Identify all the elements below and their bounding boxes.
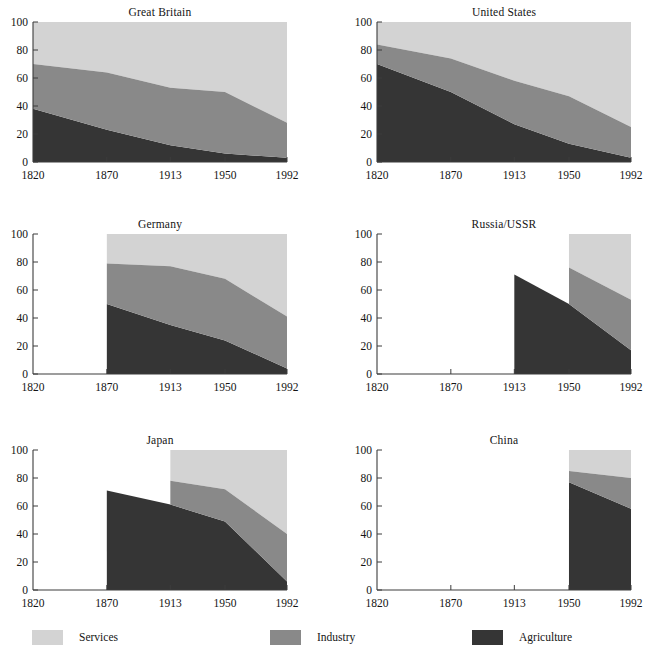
y-tick-label: 0 [366, 156, 372, 168]
y-tick-label: 60 [361, 500, 373, 512]
y-tick-label: 40 [17, 100, 29, 112]
legend-item-industry: Industry [270, 627, 355, 647]
panel-plot: 02040608010018201870191319501992 [3, 6, 301, 188]
x-tick-label: 1820 [22, 381, 45, 393]
x-tick-label: 1992 [620, 597, 643, 609]
x-tick-label: 1950 [557, 381, 580, 393]
x-tick-label: 1992 [276, 597, 299, 609]
y-tick-label: 20 [361, 340, 373, 352]
legend-label: Industry [317, 631, 355, 643]
y-tick-label: 100 [11, 444, 29, 456]
panel-germany: Germany02040608010018201870191319501992 [3, 218, 301, 400]
panel-great-britain: Great Britain020406080100182018701913195… [3, 6, 301, 188]
panel-plot: 02040608010018201870191319501992 [347, 6, 645, 188]
x-tick-label: 1913 [503, 597, 526, 609]
y-tick-label: 0 [22, 368, 28, 380]
y-tick-label: 80 [17, 44, 29, 56]
x-tick-label: 1913 [503, 169, 526, 181]
y-tick-label: 100 [11, 228, 29, 240]
y-tick-label: 100 [355, 228, 373, 240]
y-tick-label: 100 [11, 16, 29, 28]
panel-plot: 02040608010018201870191319501992 [3, 434, 301, 616]
panel-russia-ussr: Russia/USSR02040608010018201870191319501… [347, 218, 645, 400]
y-tick-label: 60 [17, 72, 29, 84]
x-tick-label: 1820 [366, 169, 389, 181]
x-tick-label: 1913 [159, 597, 182, 609]
y-tick-label: 40 [361, 312, 373, 324]
y-tick-label: 100 [355, 16, 373, 28]
y-tick-label: 0 [366, 584, 372, 596]
y-tick-label: 0 [22, 584, 28, 596]
y-tick-label: 40 [361, 100, 373, 112]
y-tick-label: 20 [361, 556, 373, 568]
y-tick-label: 60 [17, 500, 29, 512]
y-tick-label: 40 [17, 312, 29, 324]
y-tick-label: 0 [366, 368, 372, 380]
legend-label: Agriculture [519, 631, 572, 643]
legend-label: Services [79, 631, 118, 643]
x-tick-label: 1913 [159, 381, 182, 393]
y-tick-label: 60 [17, 284, 29, 296]
x-tick-label: 1870 [95, 169, 118, 181]
y-tick-label: 20 [17, 128, 29, 140]
x-tick-label: 1870 [439, 169, 462, 181]
y-tick-label: 0 [22, 156, 28, 168]
y-tick-label: 80 [17, 472, 29, 484]
y-tick-label: 20 [17, 340, 29, 352]
y-tick-label: 40 [361, 528, 373, 540]
panel-plot: 02040608010018201870191319501992 [347, 218, 645, 400]
x-tick-label: 1870 [95, 381, 118, 393]
x-tick-label: 1870 [439, 381, 462, 393]
legend: ServicesIndustryAgriculture [0, 617, 641, 663]
legend-item-agriculture: Agriculture [472, 627, 572, 647]
panel-china: China02040608010018201870191319501992 [347, 434, 645, 616]
x-tick-label: 1820 [366, 381, 389, 393]
panel-united-states: United States020406080100182018701913195… [347, 6, 645, 188]
x-tick-label: 1913 [503, 381, 526, 393]
y-tick-label: 20 [361, 128, 373, 140]
x-tick-label: 1820 [22, 169, 45, 181]
x-tick-label: 1992 [620, 381, 643, 393]
x-tick-label: 1992 [276, 169, 299, 181]
y-tick-label: 40 [17, 528, 29, 540]
legend-swatch-services [32, 630, 63, 645]
panel-plot: 02040608010018201870191319501992 [3, 218, 301, 400]
panel-plot: 02040608010018201870191319501992 [347, 434, 645, 616]
legend-swatch-industry [270, 630, 301, 645]
x-tick-label: 1950 [213, 597, 236, 609]
x-tick-label: 1950 [213, 381, 236, 393]
y-tick-label: 100 [355, 444, 373, 456]
x-tick-label: 1913 [159, 169, 182, 181]
x-tick-label: 1950 [213, 169, 236, 181]
panel-japan: Japan02040608010018201870191319501992 [3, 434, 301, 616]
legend-item-services: Services [32, 627, 118, 647]
x-tick-label: 1870 [439, 597, 462, 609]
x-tick-label: 1992 [276, 381, 299, 393]
y-tick-label: 80 [361, 256, 373, 268]
y-tick-label: 60 [361, 284, 373, 296]
x-tick-label: 1950 [557, 597, 580, 609]
y-tick-label: 80 [361, 44, 373, 56]
x-tick-label: 1870 [95, 597, 118, 609]
x-tick-label: 1950 [557, 169, 580, 181]
y-tick-label: 60 [361, 72, 373, 84]
x-tick-label: 1820 [366, 597, 389, 609]
y-tick-label: 80 [17, 256, 29, 268]
x-tick-label: 1820 [22, 597, 45, 609]
y-tick-label: 20 [17, 556, 29, 568]
y-tick-label: 80 [361, 472, 373, 484]
legend-swatch-agriculture [472, 630, 503, 645]
x-tick-label: 1992 [620, 169, 643, 181]
